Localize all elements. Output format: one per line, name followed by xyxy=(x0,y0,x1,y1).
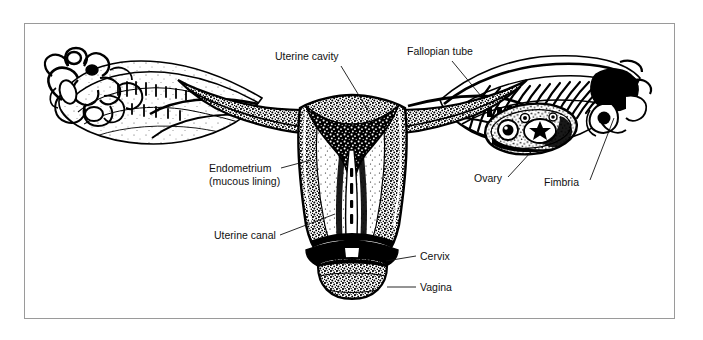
anatomy-illustration: Uterine cavity Fallopian tube Endometriu… xyxy=(0,0,703,340)
label-mucous-lining: (mucous lining) xyxy=(209,175,280,187)
uterine-canal-lumen xyxy=(346,150,358,240)
label-fallopian-tube: Fallopian tube xyxy=(407,45,473,57)
label-uterine-cavity: Uterine cavity xyxy=(275,50,339,62)
anatomy-figure: Uterine cavity Fallopian tube Endometriu… xyxy=(0,0,703,340)
left-adnexa xyxy=(45,48,264,147)
uterus xyxy=(178,80,527,302)
label-fimbria: Fimbria xyxy=(544,176,579,188)
label-ovary: Ovary xyxy=(474,172,503,184)
label-cervix: Cervix xyxy=(420,250,451,262)
vagina xyxy=(316,258,389,302)
leader-ovary xyxy=(508,152,531,177)
label-uterine-canal: Uterine canal xyxy=(214,229,276,241)
label-endometrium: Endometrium xyxy=(209,162,272,174)
label-vagina: Vagina xyxy=(420,281,452,293)
